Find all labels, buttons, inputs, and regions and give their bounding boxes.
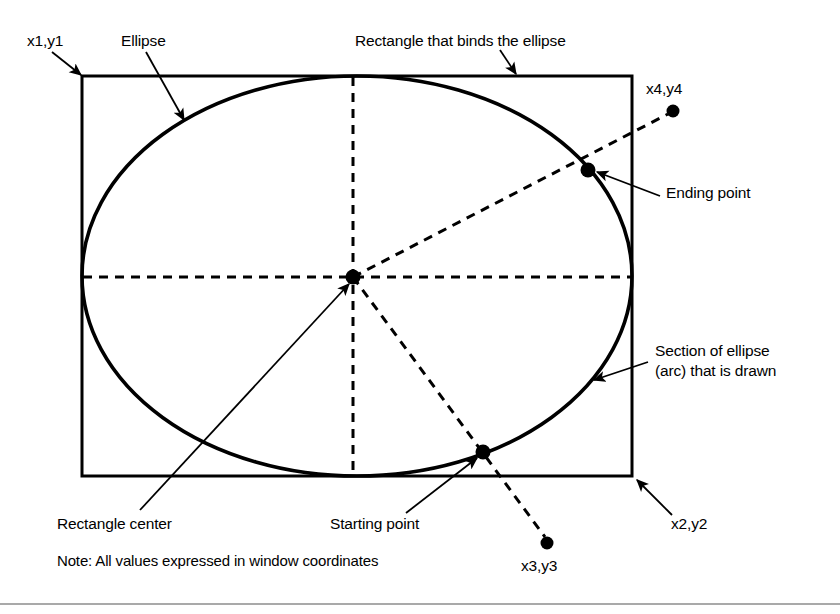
- rectangle-center-dot: [346, 270, 361, 285]
- arc-diagram-figure: x1,y1 Ellipse Rectangle that binds the e…: [0, 0, 840, 614]
- x3y3-point-dot: [541, 537, 554, 550]
- bounding-rectangle-leader-arrow: [500, 50, 516, 74]
- label-x4y4: x4,y4: [646, 79, 682, 98]
- label-arc-section-line1: Section of ellipse: [655, 341, 769, 360]
- x1y1-leader-arrow: [52, 52, 81, 75]
- starting-vector-dashed-ray: [353, 277, 545, 537]
- x2y2-leader-arrow: [637, 480, 672, 515]
- label-note: Note: All values expressed in window coo…: [57, 551, 378, 570]
- label-arc-section-line2: (arc) that is drawn: [655, 361, 776, 380]
- ellipse-leader-arrow: [146, 52, 184, 120]
- label-rectangle-center: Rectangle center: [57, 514, 172, 533]
- label-x2y2: x2,y2: [671, 514, 707, 533]
- starting-point-dot: [476, 445, 491, 460]
- ending-vector-dashed-ray: [353, 114, 668, 277]
- label-x1y1: x1,y1: [27, 31, 63, 50]
- label-ending-point: Ending point: [666, 183, 750, 202]
- label-bounding-rectangle: Rectangle that binds the ellipse: [355, 31, 566, 50]
- label-x3y3: x3,y3: [521, 556, 557, 575]
- label-starting-point: Starting point: [330, 514, 419, 533]
- label-ellipse: Ellipse: [121, 31, 166, 50]
- x4y4-point-dot: [667, 105, 680, 118]
- ending-point-dot: [581, 163, 596, 178]
